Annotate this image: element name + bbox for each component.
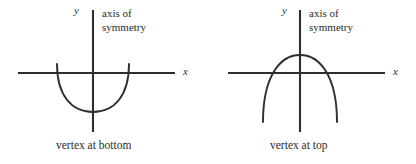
x-axis-label: x — [393, 65, 398, 78]
y-axis-label: y — [282, 4, 287, 17]
caption-vertex-at-top: vertex at top — [270, 139, 327, 153]
parabola-figure: y x axis of symmetry vertex at bottom y … — [0, 0, 416, 164]
diagram-vertex-at-bottom: y x axis of symmetry vertex at bottom — [0, 0, 208, 164]
diagram-vertex-at-top: y x axis of symmetry vertex at top — [208, 0, 416, 164]
axis-of-symmetry-annotation-line2: symmetry — [102, 21, 146, 34]
axis-of-symmetry-annotation-line1: axis of — [309, 7, 339, 20]
y-axis-label: y — [74, 4, 79, 17]
axis-of-symmetry-annotation-line1: axis of — [102, 7, 132, 20]
axis-of-symmetry-annotation-line2: symmetry — [309, 21, 353, 34]
x-axis-label: x — [183, 65, 188, 78]
caption-vertex-at-bottom: vertex at bottom — [56, 139, 131, 153]
